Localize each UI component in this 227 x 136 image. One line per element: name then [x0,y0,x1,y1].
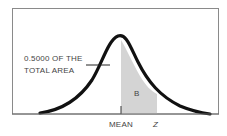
annotation-text-line1: 0.5000 OF THE [24,54,82,64]
shaded-area-b [121,40,157,114]
annotation-text-line2: TOTAL AREA [24,66,74,76]
mean-label: MEAN [109,120,133,130]
shaded-region-label: B [134,89,140,99]
z-label: Z [153,120,158,130]
